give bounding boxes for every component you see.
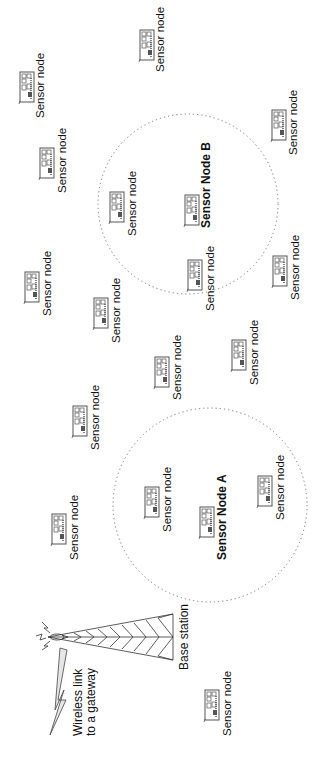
wireless-link-lightning-icon [50, 648, 67, 735]
diagram-graphics [0, 0, 315, 784]
sensor-node-label: Sensor node [205, 246, 217, 311]
sensor-node-label: Sensor node [42, 251, 54, 316]
sensor-node-label: Sensor node [57, 128, 69, 193]
sensor-node-label: Sensor node [35, 53, 47, 118]
sensor-node-label: Sensor node [172, 335, 184, 400]
sensor-node-label: Sensor node [155, 7, 167, 72]
wireless-link-label-line1: Wireless link [72, 669, 84, 736]
base-station-label: Base station [178, 604, 190, 670]
sensor-node-b-label: Sensor Node B [200, 142, 212, 228]
sensor-node-label: Sensor node [69, 495, 81, 560]
base-station-tower-icon [36, 614, 173, 660]
sensor-node-label: Sensor node [275, 455, 287, 520]
sensor-node-label: Sensor node [290, 235, 302, 300]
sensor-node-label: Sensor node [222, 671, 234, 736]
wireless-link-label-line2: to a gateway [85, 668, 97, 736]
sensor-node-label: Sensor node [90, 385, 102, 450]
sensor-node-label: Sensor node [288, 90, 300, 155]
sensor-node-a-label: Sensor Node A [216, 474, 228, 560]
sensor-node-label: Sensor node [162, 467, 174, 532]
sensor-node-label: Sensor node [249, 320, 261, 385]
sensor-node-label: Sensor node [127, 171, 139, 236]
sensor-network-diagram: Sensor node Sensor node Sensor node Sens… [0, 0, 315, 784]
sensor-node-label: Sensor node [111, 278, 123, 343]
